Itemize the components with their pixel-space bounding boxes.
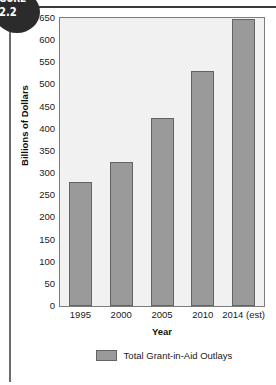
y-axis-tick-label: 0	[22, 301, 55, 311]
legend-label: Total Grant-in-Aid Outlays	[124, 350, 233, 361]
y-axis-tick-label: 200	[22, 213, 55, 223]
bar-chart: 050100150200250300350400450500550600650 …	[0, 0, 276, 385]
y-axis-tick-label: 600	[22, 35, 55, 45]
x-axis-tick-label: 2010	[192, 309, 213, 320]
figure-badge-number: 2.2	[0, 4, 17, 18]
x-axis-tick-label: 2000	[111, 309, 132, 320]
bar	[191, 71, 214, 306]
y-axis-tick-label: 150	[22, 235, 55, 245]
y-axis-tick-label: 50	[22, 279, 55, 289]
x-axis-tick-label: 2014 (est)	[222, 309, 265, 320]
y-axis-title: Billions of Dollars	[19, 66, 30, 186]
y-axis-tick-label: 250	[22, 190, 55, 200]
bar	[151, 118, 174, 306]
bars-container	[60, 18, 264, 306]
bar	[232, 19, 255, 306]
x-axis-tick-labels: 19952000200520102014 (est)	[59, 309, 271, 323]
x-axis-tick-label: 2005	[151, 309, 172, 320]
bar	[110, 162, 133, 306]
x-axis-title: Year	[59, 326, 265, 337]
legend-swatch-total-grant-in-aid-outlays	[96, 350, 117, 361]
x-axis-tick-label: 1995	[70, 309, 91, 320]
bar	[69, 182, 92, 306]
chart-legend: Total Grant-in-Aid Outlays	[59, 350, 269, 361]
y-axis-tick-label: 100	[22, 257, 55, 267]
